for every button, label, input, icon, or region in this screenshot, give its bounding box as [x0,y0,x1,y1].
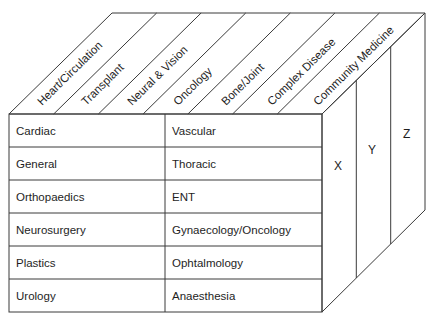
cell-thoracic: Thoracic [172,158,216,170]
front-face [9,114,322,312]
side-labels: X Y Z [334,127,410,173]
top-label-bone-joint: Bone/Joint [219,60,267,107]
cell-ophtalmology: Ophtalmology [172,257,243,269]
top-label-transplant: Transplant [79,61,126,108]
cell-general: General [16,158,57,170]
cell-vascular: Vascular [172,125,216,137]
cube-diagram: Heart/Circulation Transplant Neural & Vi… [0,0,436,318]
side-label-z: Z [403,127,410,141]
cell-orthopaedics: Orthopaedics [16,191,85,203]
top-label-oncology: Oncology [171,65,214,108]
cell-urology: Urology [16,290,56,302]
cell-cardiac: Cardiac [16,125,56,137]
top-label-community-medicine: Community Medicine [311,24,396,108]
cell-anaesthesia: Anaesthesia [172,290,236,302]
side-label-x: X [334,159,342,173]
side-label-y: Y [368,143,376,157]
cell-plastics: Plastics [16,257,56,269]
cell-ent: ENT [172,191,195,203]
cell-gynaecology-oncology: Gynaecology/Oncology [172,224,291,236]
cell-neurosurgery: Neurosurgery [16,224,86,236]
